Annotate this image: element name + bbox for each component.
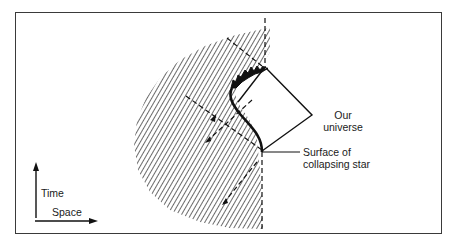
label-collapsing-star: collapsing star	[303, 158, 370, 170]
label-surface-of: Surface of	[303, 146, 370, 158]
label-our: Our	[318, 109, 368, 121]
label-time-axis: Time	[41, 187, 64, 199]
label-our-universe: Our universe	[318, 109, 368, 133]
space-axis-arrow	[35, 218, 98, 224]
label-universe: universe	[318, 121, 368, 133]
time-axis-arrow	[33, 162, 39, 218]
label-space-axis: Space	[52, 206, 82, 218]
label-surface-of-collapsing-star: Surface of collapsing star	[303, 146, 370, 170]
hatched-region-star-interior	[134, 28, 270, 229]
